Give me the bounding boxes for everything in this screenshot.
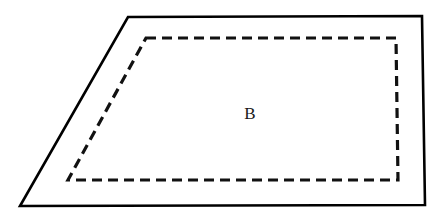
dashed-quadrilateral-outline xyxy=(68,38,398,180)
geometry-figure: B xyxy=(0,0,444,222)
solid-quadrilateral-outline xyxy=(20,16,425,206)
figure-canvas: B xyxy=(0,0,444,222)
region-label-b: B xyxy=(244,104,256,123)
